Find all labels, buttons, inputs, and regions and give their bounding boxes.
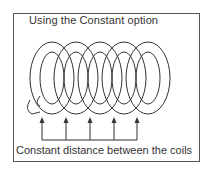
coil-3 — [78, 42, 122, 114]
coil-5 — [126, 42, 170, 114]
coil-4 — [102, 42, 146, 114]
coil-2 — [54, 42, 98, 114]
figure-caption: Constant distance between the coils — [16, 144, 192, 156]
